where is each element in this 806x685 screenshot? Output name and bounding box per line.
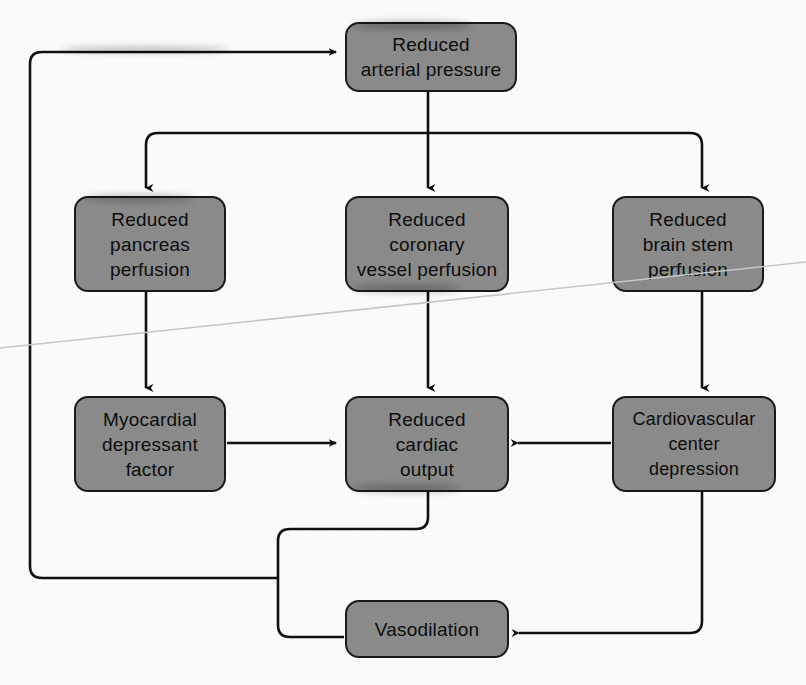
node-reduced-arterial-pressure[interactable]: Reduced arterial pressure (345, 22, 517, 92)
node-label: Myocardial depressant factor (96, 407, 204, 482)
node-vasodilation[interactable]: Vasodilation (345, 600, 509, 658)
node-reduced-coronary-vessel-perfusion[interactable]: Reduced coronary vessel perfusion (345, 196, 509, 292)
flowchart-diagram: Reduced arterial pressure Reduced pancre… (0, 0, 806, 685)
node-label: Reduced cardiac output (382, 407, 471, 482)
edge-bus-to-pancreas-corner (146, 133, 158, 145)
edge-bus-to-brain-stem-corner (690, 133, 702, 145)
node-label: Reduced arterial pressure (355, 32, 508, 82)
connector-layer (0, 0, 806, 685)
node-cardiovascular-center-depression[interactable]: Cardiovascular center depression (612, 396, 776, 492)
node-reduced-brain-stem-perfusion[interactable]: Reduced brain stem perfusion (612, 196, 764, 292)
node-label: Reduced coronary vessel perfusion (351, 207, 504, 282)
node-label: Cardiovascular center depression (627, 407, 762, 482)
node-label: Reduced pancreas perfusion (104, 207, 196, 282)
node-myocardial-depressant-factor[interactable]: Myocardial depressant factor (74, 396, 226, 492)
edge-cv-center-to-vasodilation (519, 492, 702, 633)
node-reduced-pancreas-perfusion[interactable]: Reduced pancreas perfusion (74, 196, 226, 292)
node-label: Reduced brain stem perfusion (637, 207, 740, 282)
edge-feedback-to-arterial-pressure (30, 52, 336, 578)
node-reduced-cardiac-output[interactable]: Reduced cardiac output (345, 396, 509, 492)
node-label: Vasodilation (369, 617, 486, 642)
